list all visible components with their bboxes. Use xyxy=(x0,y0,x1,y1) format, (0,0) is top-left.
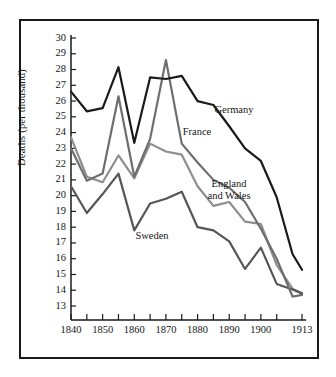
y-axis-tick-label: 15 xyxy=(43,268,66,279)
y-axis-tick-label: 16 xyxy=(43,252,66,263)
y-axis-tick-label: 25 xyxy=(43,110,66,121)
y-axis-tick-label: 24 xyxy=(43,126,66,137)
y-axis-tick-label: 23 xyxy=(43,142,66,153)
x-axis-tick-label: 1900 xyxy=(241,324,281,335)
x-axis-tick-label: 1913 xyxy=(282,324,322,335)
y-axis-tick-label: 18 xyxy=(43,221,66,232)
y-axis-tick-label: 13 xyxy=(43,300,66,311)
y-axis-tick-label: 19 xyxy=(43,205,66,216)
series-label-line: and Wales xyxy=(189,190,269,202)
series-label-sweden: Sweden xyxy=(112,230,192,242)
y-axis-tick-label: 21 xyxy=(43,173,66,184)
y-axis-tick-label: 29 xyxy=(43,47,66,58)
y-axis-tick-label: 17 xyxy=(43,236,66,247)
series-label-england-and-wales: Englandand Wales xyxy=(189,178,269,201)
series-label-france: France xyxy=(157,126,237,138)
y-axis-tick-label: 20 xyxy=(43,189,66,200)
series-label-line: England xyxy=(189,178,269,190)
y-axis-tick-label: 14 xyxy=(43,284,66,295)
y-axis-tick-label: 26 xyxy=(43,95,66,106)
series-label-germany: Germany xyxy=(194,104,274,116)
y-axis-tick-label: 28 xyxy=(43,63,66,74)
chart-figure: Deaths (per thousand) 302928272625242322… xyxy=(0,0,336,377)
y-axis-tick-label: 27 xyxy=(43,79,66,90)
y-axis-tick-label: 22 xyxy=(43,158,66,169)
y-axis-tick-label: 30 xyxy=(43,32,66,43)
